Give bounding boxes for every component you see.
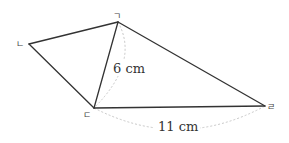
vertex-label-r: ㄹ: [267, 102, 275, 112]
vertex-label-d: ㄷ: [83, 110, 91, 120]
vertex-label-n: ㄴ: [16, 39, 24, 49]
edge-d-r: [94, 106, 265, 108]
quadrilateral-diagram: ㄱ ㄴ ㄷ ㄹ 6 cm 11 cm: [0, 0, 289, 143]
measurement-label-base: 11 cm: [158, 119, 198, 134]
measurement-label-diagonal: 6 cm: [113, 61, 145, 76]
vertex-label-g: ㄱ: [113, 11, 121, 21]
edge-g-n: [29, 22, 118, 44]
edge-n-d: [29, 44, 94, 108]
